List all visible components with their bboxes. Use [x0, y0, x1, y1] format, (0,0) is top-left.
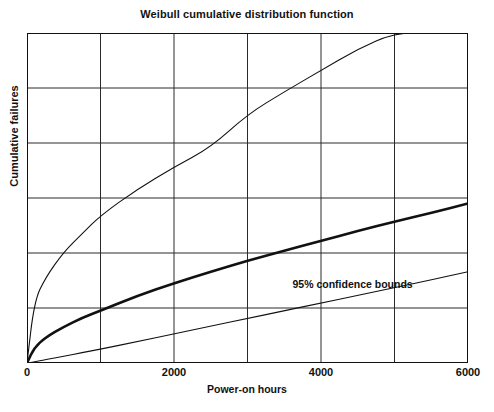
weibull-cdf-figure: Weibull cumulative distribution function…: [0, 0, 494, 412]
confidence-bounds-annotation: 95% confidence bounds: [293, 278, 413, 290]
x-axis-label: Power-on hours: [0, 383, 494, 395]
x-tick-label: 0: [24, 366, 30, 378]
y-axis-label: Cumulative failures: [8, 36, 20, 236]
plot-area: [27, 33, 468, 363]
y-axis-label-container: Cumulative failures: [0, 0, 27, 412]
x-tick-label: 6000: [456, 366, 480, 378]
x-tick-label: 2000: [162, 366, 186, 378]
x-tick-label: 4000: [309, 366, 333, 378]
plot-svg: [27, 33, 468, 363]
chart-title: Weibull cumulative distribution function: [0, 8, 494, 20]
